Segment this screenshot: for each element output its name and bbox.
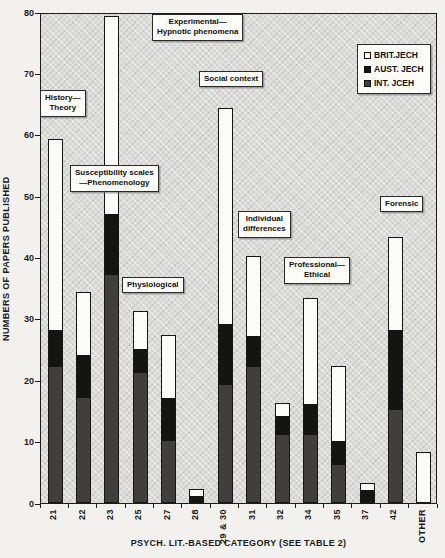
y-tick-label: 60 bbox=[8, 131, 34, 140]
x-tick-label-22: 22 bbox=[77, 509, 87, 520]
bar-segment-aust-jech bbox=[49, 330, 62, 367]
x-tick-mark bbox=[181, 504, 182, 508]
annotation-professional: Professional—Ethical bbox=[284, 257, 350, 284]
x-tick-mark bbox=[437, 504, 438, 508]
bar-37 bbox=[360, 483, 375, 503]
legend-swatch-icon bbox=[364, 52, 371, 59]
bar-segment-aust-jech bbox=[332, 441, 345, 466]
y-tick-mark bbox=[35, 13, 40, 14]
bar-segment-aust-jech bbox=[276, 416, 289, 434]
legend-item: BRIT.JECH bbox=[364, 50, 424, 60]
bar-segment-aust-jech bbox=[190, 496, 203, 502]
bar-segment-int-jceh bbox=[247, 367, 260, 502]
bar-segment-brit-jech bbox=[332, 367, 345, 441]
bar-segment-brit-jech bbox=[417, 453, 430, 502]
y-tick-label: 70 bbox=[8, 70, 34, 79]
annotation-susceptibility: Susceptibility scales—Phenomenology bbox=[70, 165, 159, 192]
y-tick-mark bbox=[35, 442, 40, 443]
x-tick-mark bbox=[380, 504, 381, 508]
bar-segment-aust-jech bbox=[389, 330, 402, 410]
x-tick-mark bbox=[68, 504, 69, 508]
legend-item: AUST. JECH bbox=[364, 64, 424, 74]
annotation-individual: Individualdifferences bbox=[238, 211, 291, 238]
bar-segment-aust-jech bbox=[219, 324, 232, 385]
x-tick-mark bbox=[96, 504, 97, 508]
annotation-physiological: Physiological bbox=[122, 277, 184, 293]
x-tick-mark bbox=[40, 504, 41, 508]
bar-segment-int-jceh bbox=[105, 275, 118, 502]
bar-22 bbox=[76, 292, 91, 503]
y-tick-label: 0 bbox=[8, 500, 34, 509]
bar-segment-brit-jech bbox=[219, 109, 232, 324]
x-axis-title: PSYCH. LIT.-BASED CATEGORY (SEE TABLE 2) bbox=[40, 538, 437, 548]
bar-segment-int-jceh bbox=[49, 367, 62, 502]
x-tick-label-28: 28 bbox=[190, 509, 200, 520]
legend-label: INT. JCEH bbox=[374, 78, 414, 88]
x-tick-mark bbox=[408, 504, 409, 508]
x-tick-mark bbox=[266, 504, 267, 508]
x-tick-label-23: 23 bbox=[105, 509, 115, 520]
bar-23 bbox=[104, 16, 119, 503]
bar-segment-aust-jech bbox=[361, 490, 374, 502]
bar-segment-int-jceh bbox=[77, 398, 90, 502]
bar-segment-aust-jech bbox=[304, 404, 317, 435]
legend: BRIT.JECHAUST. JECHINT. JCEH bbox=[357, 44, 431, 94]
legend-item: INT. JCEH bbox=[364, 78, 424, 88]
annotation-forensic: Forensic bbox=[380, 196, 423, 212]
x-tick-mark bbox=[125, 504, 126, 508]
x-tick-label-37: 37 bbox=[360, 509, 370, 520]
bar-segment-brit-jech bbox=[162, 336, 175, 397]
bar-32 bbox=[275, 403, 290, 503]
bar-27 bbox=[161, 335, 176, 503]
bar-31 bbox=[246, 256, 261, 503]
y-tick-label: 50 bbox=[8, 193, 34, 202]
x-tick-label-32: 32 bbox=[275, 509, 285, 520]
bar-segment-int-jceh bbox=[276, 435, 289, 503]
bar-segment-int-jceh bbox=[162, 441, 175, 502]
annotation-experimental: Experimental—Hypnotic phenomena bbox=[152, 14, 243, 41]
annotation-social: Social context bbox=[199, 71, 263, 87]
bar-segment-int-jceh bbox=[332, 465, 345, 502]
y-tick-mark bbox=[35, 319, 40, 320]
bar-segment-aust-jech bbox=[162, 398, 175, 441]
bar-21 bbox=[48, 139, 63, 503]
legend-label: AUST. JECH bbox=[374, 64, 424, 74]
x-tick-mark bbox=[351, 504, 352, 508]
x-tick-label-27: 27 bbox=[162, 509, 172, 520]
legend-swatch-icon bbox=[364, 66, 371, 73]
y-tick-mark bbox=[35, 74, 40, 75]
bar-segment-brit-jech bbox=[49, 140, 62, 330]
y-tick-label: 40 bbox=[8, 254, 34, 263]
x-tick-mark bbox=[153, 504, 154, 508]
y-tick-mark bbox=[35, 381, 40, 382]
x-tick-label-31: 31 bbox=[247, 509, 257, 520]
bar-34 bbox=[303, 298, 318, 503]
bar-segment-brit-jech bbox=[134, 312, 147, 349]
x-tick-label-35: 35 bbox=[332, 509, 342, 520]
bar-28 bbox=[189, 489, 204, 503]
bar-segment-int-jceh bbox=[304, 435, 317, 503]
y-tick-mark bbox=[35, 197, 40, 198]
x-tick-label-34: 34 bbox=[303, 509, 313, 520]
y-tick-mark bbox=[35, 258, 40, 259]
legend-swatch-icon bbox=[364, 80, 371, 87]
stacked-bar-chart-figure: NUMBERS OF PAPERS PUBLISHED 010203040506… bbox=[0, 0, 445, 558]
bar-25 bbox=[133, 311, 148, 503]
bar-segment-aust-jech bbox=[105, 214, 118, 275]
bar-segment-brit-jech bbox=[247, 257, 260, 337]
x-tick-label-25: 25 bbox=[133, 509, 143, 520]
x-tick-label-42: 42 bbox=[388, 509, 398, 520]
bar-segment-brit-jech bbox=[276, 404, 289, 416]
legend-label: BRIT.JECH bbox=[374, 50, 418, 60]
bar-OTHER bbox=[416, 452, 431, 503]
y-tick-label: 10 bbox=[8, 438, 34, 447]
bar-segment-brit-jech bbox=[304, 299, 317, 403]
bar-segment-int-jceh bbox=[389, 410, 402, 502]
bar-segment-int-jceh bbox=[134, 373, 147, 502]
bar-segment-brit-jech bbox=[389, 238, 402, 330]
bar-42 bbox=[388, 237, 403, 503]
annotation-history: History—Theory bbox=[40, 90, 86, 117]
bar-segment-aust-jech bbox=[134, 349, 147, 374]
y-tick-label: 30 bbox=[8, 315, 34, 324]
bar-segment-aust-jech bbox=[247, 336, 260, 367]
